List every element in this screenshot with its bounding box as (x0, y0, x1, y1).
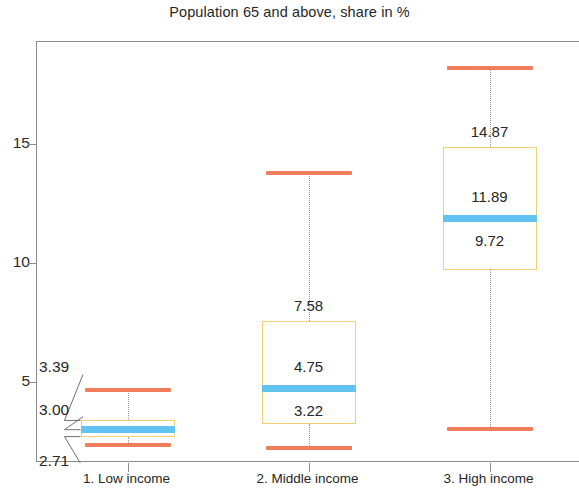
upper-whisker-cap (85, 388, 171, 392)
box-plot-chart: Population 65 and above, share in % 5101… (0, 0, 579, 498)
x-axis-category-label: 2. Middle income (256, 471, 358, 486)
q1-value-label: 3.22 (294, 402, 323, 419)
upper-whisker-cap (447, 66, 533, 70)
box-plot-group[interactable]: 7.584.753.22 (218, 42, 399, 463)
q1-callout-label: 2.71 (39, 452, 69, 470)
lower-whisker-cap (266, 446, 352, 450)
q1-value-label: 9.72 (475, 232, 504, 249)
lower-whisker-cap (85, 443, 171, 447)
x-axis-category-label: 3. High income (443, 471, 533, 486)
upper-whisker-stem (128, 390, 129, 420)
lower-whisker-stem (309, 424, 310, 447)
x-axis-category-label: 1. Low income (83, 471, 170, 486)
y-axis-tick-label: 15 (13, 134, 30, 152)
median-line (443, 215, 537, 222)
y-axis-tick-label: 5 (21, 372, 30, 390)
q3-callout-label: 3.39 (39, 358, 69, 376)
upper-whisker-cap (266, 171, 352, 175)
plot-area: 3.393.002.717.584.753.2214.8711.899.72 (36, 41, 579, 462)
q3-value-label: 7.58 (294, 296, 323, 313)
y-axis-tick (28, 263, 37, 264)
y-axis-labels: 51015 (0, 41, 34, 462)
median-line (262, 385, 356, 392)
chart-title: Population 65 and above, share in % (0, 4, 579, 20)
q3-value-label: 14.87 (471, 123, 509, 140)
y-axis-tick-label: 10 (13, 253, 30, 271)
box-plot-group[interactable]: 14.8711.899.72 (399, 42, 579, 463)
median-value-label: 4.75 (294, 358, 323, 375)
median-value-label: 11.89 (471, 188, 507, 205)
lower-whisker-stem (490, 270, 491, 429)
median-line (81, 426, 175, 433)
y-axis-tick (28, 144, 37, 145)
interquartile-box[interactable] (443, 147, 537, 269)
median-callout-label: 3.00 (39, 401, 69, 419)
lower-whisker-cap (447, 427, 533, 431)
y-axis-tick (28, 382, 37, 383)
